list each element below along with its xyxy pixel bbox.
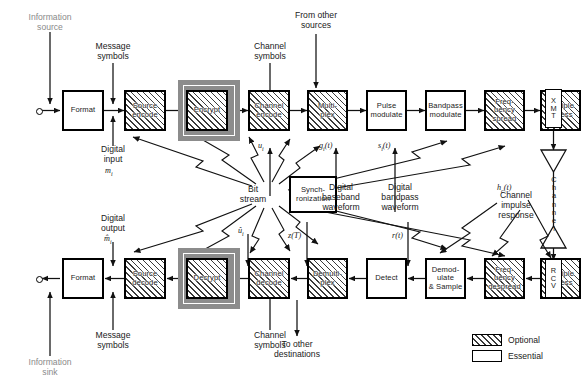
label-channel-impulse-response: Channelimpulseresponse <box>485 190 547 221</box>
label-digital-output: Digitaloutput <box>78 213 148 233</box>
block-channel-encode-label: Channelencode <box>254 102 285 119</box>
block-source-decode[interactable]: Sourcedecode <box>124 258 166 299</box>
channel-vertical-label: Ch an ne l <box>547 176 561 233</box>
block-channel-encode[interactable]: Channelencode <box>248 90 290 131</box>
legend-row-essential: Essential <box>472 350 543 362</box>
block-decrypt-label: Decrypt <box>193 274 222 283</box>
math-r-t: r(t) <box>392 231 403 240</box>
legend: Optional Essential <box>472 334 543 366</box>
label-digital-input: Digitalinput <box>79 144 147 164</box>
sink-terminal-rx <box>36 276 43 283</box>
source-terminal-tx <box>36 108 43 115</box>
block-multiplex-label: Multi-plex <box>317 102 338 119</box>
label-message-symbols-tx: Messagesymbols <box>76 41 150 61</box>
label-bit-stream: Bitstream <box>229 184 277 204</box>
block-format-tx[interactable]: Format <box>62 90 104 131</box>
block-multiplex[interactable]: Multi-plex <box>307 90 348 131</box>
block-encrypt-label: Encrypt <box>193 106 221 115</box>
block-detect-label: Detect <box>374 274 399 283</box>
transmit-antenna-icon <box>541 150 566 172</box>
label-information-sink: Informationsink <box>8 357 92 377</box>
math-z-T: z(T) <box>288 231 301 240</box>
block-format-rx[interactable]: Format <box>62 258 104 299</box>
math-m-i: mi <box>105 166 113 177</box>
legend-swatch-optional <box>472 334 502 346</box>
transmitter-xmt-box[interactable]: X M T <box>545 89 562 128</box>
block-bandpass-modulate-label: Bandpassmodulate <box>427 102 464 119</box>
block-pulse-modulate[interactable]: Pulsemodulate <box>366 90 407 131</box>
legend-label-optional: Optional <box>508 335 540 345</box>
math-u-i: ui <box>258 141 264 152</box>
math-m-hat-i: m̂i <box>104 234 112 245</box>
legend-label-essential: Essential <box>508 351 543 361</box>
block-frequency-spread-label: Freq-uencyspread <box>492 98 518 124</box>
block-channel-decode[interactable]: Channeldecode <box>248 258 290 299</box>
label-digital-bandpass-waveform: Digitalbandpasswaveform <box>371 182 429 213</box>
receiver-rcv-box[interactable]: R C V <box>545 259 562 298</box>
legend-row-optional: Optional <box>472 334 543 346</box>
block-format-rx-label: Format <box>70 274 97 283</box>
block-demodulate-sample-label: Demod-ulate& Sample <box>428 266 464 292</box>
block-pulse-modulate-label: Pulsemodulate <box>369 102 403 119</box>
block-demultiplex-label: Demulti-plex <box>312 270 343 287</box>
block-source-decode-label: Sourcedecode <box>131 270 159 287</box>
block-channel-decode-label: Channeldecode <box>254 270 285 287</box>
block-source-encode[interactable]: Sourceencode <box>124 90 166 131</box>
label-from-other-sources: From othersources <box>272 10 360 30</box>
block-source-encode-label: Sourceencode <box>131 102 159 119</box>
label-to-other-destinations: To otherdestinations <box>250 339 344 359</box>
block-format-tx-label: Format <box>70 106 97 115</box>
block-frequency-despread-label: Freq-uencydespread <box>487 266 521 292</box>
label-information-source: Informationsource <box>8 12 92 32</box>
rcv-letter-v: V <box>551 282 556 290</box>
block-demultiplex[interactable]: Demulti-plex <box>307 258 348 299</box>
xmt-letter-t: T <box>551 112 556 120</box>
block-encrypt[interactable]: Encrypt <box>186 90 228 131</box>
math-h-c-t: hc(t) <box>497 183 512 194</box>
label-message-symbols-rx: Messagesymbols <box>76 330 150 350</box>
legend-swatch-essential <box>472 350 502 362</box>
block-decrypt[interactable]: Decrypt <box>186 258 228 299</box>
math-s-i-t: si(t) <box>378 141 391 152</box>
label-channel-symbols-tx: Channelsymbols <box>233 41 307 61</box>
block-frequency-despread[interactable]: Freq-uencydespread <box>484 258 525 299</box>
block-detect[interactable]: Detect <box>366 258 407 299</box>
math-g-i-t: gi(t) <box>319 141 333 152</box>
block-bandpass-modulate[interactable]: Bandpassmodulate <box>425 90 466 131</box>
block-frequency-spread[interactable]: Freq-uencyspread <box>484 90 525 131</box>
block-demodulate-sample[interactable]: Demod-ulate& Sample <box>425 258 466 299</box>
math-u-hat-i: ûi <box>238 226 244 237</box>
label-digital-baseband-waveform: Digitalbasebandwaveform <box>312 182 370 213</box>
